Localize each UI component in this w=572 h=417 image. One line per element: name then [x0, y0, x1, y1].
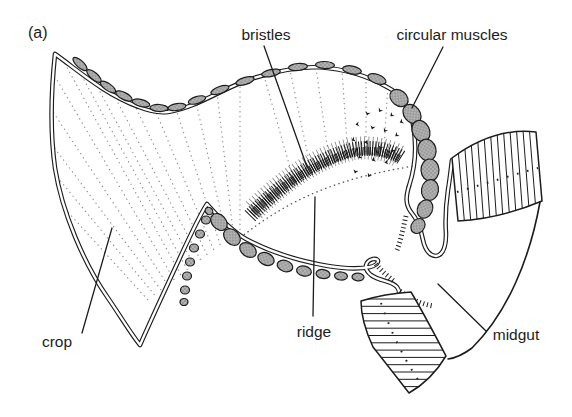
muscle-segment	[180, 299, 188, 306]
label-midgut: midgut	[493, 326, 540, 343]
muscle-segment	[202, 216, 211, 224]
anatomy-diagram: (a) bristles circular muscles crop ridge…	[0, 0, 572, 417]
muscle-segment	[183, 272, 192, 280]
label-bristles: bristles	[241, 26, 290, 43]
muscle-segment	[190, 244, 199, 252]
muscle-segment	[421, 159, 440, 182]
muscle-segment	[181, 286, 190, 294]
muscle-segment	[352, 273, 364, 281]
label-crop: crop	[42, 333, 72, 350]
muscle-segment	[315, 61, 334, 69]
muscle-segment	[150, 104, 168, 112]
figure-canvas: (a) bristles circular muscles crop ridge…	[0, 0, 572, 417]
label-circular-muscles: circular muscles	[396, 26, 507, 43]
muscle-segment	[186, 258, 195, 266]
panel-label: (a)	[28, 24, 48, 41]
muscle-segment	[196, 230, 205, 238]
label-ridge: ridge	[297, 323, 331, 340]
